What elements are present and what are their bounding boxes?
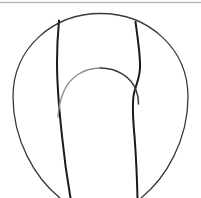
paper-background [0,0,201,198]
figure-canvas: Hand-drawn contour sketch of a rounded o… [0,0,201,198]
line-drawing-svg [0,0,201,198]
